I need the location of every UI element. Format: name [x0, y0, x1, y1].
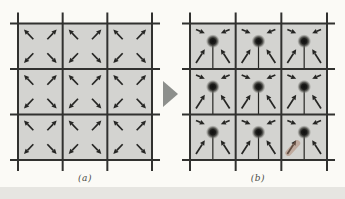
lattice-diagram	[0, 0, 345, 199]
panel-b-label: (b)	[251, 174, 265, 183]
grid-a-outward-arrows	[10, 13, 160, 172]
grid-b-inward-arrows-with-dots	[182, 13, 335, 172]
transform-arrow-icon	[163, 81, 178, 107]
page-edge-shadow	[0, 187, 345, 199]
panel-a-label: (a)	[78, 174, 92, 183]
figure-canvas: (a) (b)	[0, 0, 345, 199]
